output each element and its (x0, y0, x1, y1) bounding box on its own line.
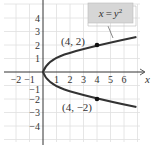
svg-text:1: 1 (35, 53, 40, 64)
svg-text:2: 2 (68, 74, 73, 85)
svg-text:4: 4 (35, 13, 40, 24)
svg-text:−4: −4 (29, 121, 40, 132)
x-axis-label: x (144, 73, 150, 85)
point-label-4-neg2: (4, −2) (62, 101, 92, 114)
svg-text:−2: −2 (11, 74, 22, 85)
point-label-4-2: (4, 2) (61, 35, 85, 48)
svg-text:3: 3 (35, 26, 40, 37)
svg-text:6: 6 (122, 74, 127, 85)
point-4-neg2 (95, 97, 100, 102)
svg-text:4: 4 (95, 74, 100, 85)
svg-text:3: 3 (81, 74, 86, 85)
svg-text:5: 5 (108, 74, 113, 85)
parabola-graph: x −2 −1 1 2 3 4 5 6 4 3 2 1 −1 −2 −3 −4 … (0, 0, 151, 145)
x-tick-labels: −2 −1 1 2 3 4 5 6 (11, 74, 127, 85)
point-4-2 (95, 43, 100, 48)
svg-text:−3: −3 (29, 107, 40, 118)
grid (4, 4, 140, 142)
svg-text:1: 1 (54, 74, 59, 85)
svg-text:−2: −2 (29, 94, 40, 105)
svg-text:2: 2 (35, 40, 40, 51)
